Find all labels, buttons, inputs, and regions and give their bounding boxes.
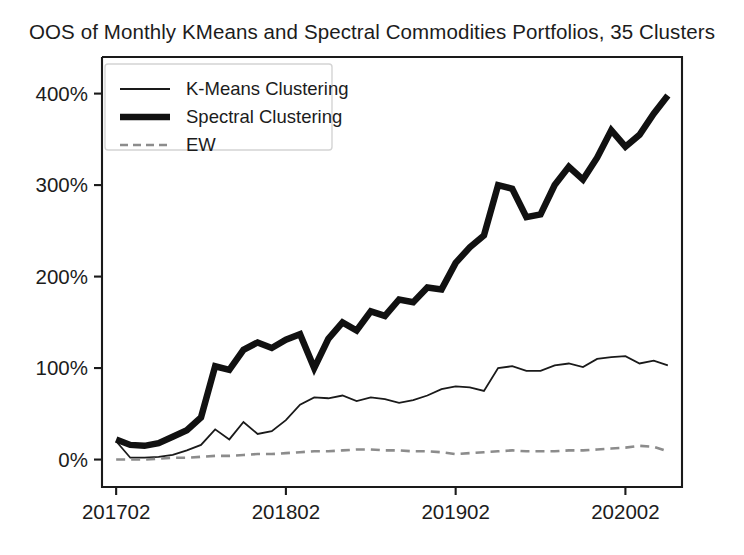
chart-figure: OOS of Monthly KMeans and Spectral Commo… bbox=[0, 0, 744, 555]
series-line-k-means-clustering bbox=[116, 356, 668, 458]
y-tick-label: 300% bbox=[36, 173, 88, 196]
y-tick-label: 400% bbox=[36, 82, 88, 105]
series-line-ew bbox=[116, 446, 668, 460]
legend-label-1[interactable]: K-Means Clustering bbox=[186, 78, 348, 99]
y-axis-tick-labels: 0%100%200%300%400% bbox=[36, 82, 88, 471]
chart-plot-area: 0%100%200%300%400% 201702201802201902202… bbox=[0, 0, 744, 555]
legend-label-3[interactable]: EW bbox=[186, 134, 216, 155]
y-tick-label: 100% bbox=[36, 356, 88, 379]
x-axis-tick-labels: 201702201802201902202002 bbox=[82, 500, 660, 523]
x-tick-label: 201702 bbox=[82, 500, 150, 523]
y-tick-label: 0% bbox=[58, 448, 88, 471]
chart-legend[interactable]: K-Means ClusteringSpectral ClusteringEW bbox=[105, 64, 348, 155]
x-tick-label: 201902 bbox=[421, 500, 489, 523]
x-tick-label: 202002 bbox=[591, 500, 659, 523]
y-axis-ticks bbox=[94, 94, 102, 460]
legend-label-2[interactable]: Spectral Clustering bbox=[186, 106, 342, 127]
x-tick-label: 201802 bbox=[252, 500, 320, 523]
y-tick-label: 200% bbox=[36, 265, 88, 288]
x-axis-ticks bbox=[116, 487, 625, 495]
